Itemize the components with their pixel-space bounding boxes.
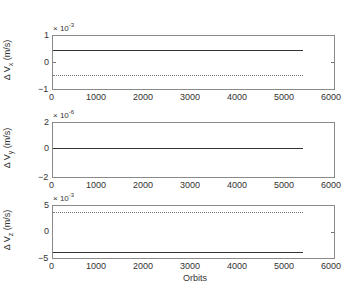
y-exponent-label: × 10-3 [53, 22, 74, 33]
y-tick-label: 5 [44, 200, 49, 210]
y-tick-label: −2 [38, 172, 48, 182]
y-tick [331, 62, 334, 63]
dotted-series-line [53, 212, 303, 213]
x-tick-label: 5000 [274, 261, 294, 271]
y-axis-label: Δ Vx (m/s) [2, 40, 14, 81]
x-tick-label: 4000 [227, 92, 247, 102]
y-tick-label: −1 [38, 84, 48, 94]
x-tick-label: 6000 [321, 261, 341, 271]
x-tick-label: 1000 [86, 261, 106, 271]
x-tick-label: 1000 [86, 92, 106, 102]
x-tick-label: 4000 [227, 261, 247, 271]
x-tick-label: 3000 [180, 180, 200, 190]
y-tick [331, 232, 334, 233]
x-tick-label: 6000 [321, 180, 341, 190]
x-tick-label: 5000 [274, 92, 294, 102]
solid-series-line [53, 50, 303, 51]
x-tick-label: 0 [49, 261, 54, 271]
x-tick-label: 2000 [133, 92, 153, 102]
x-tick-label: 4000 [227, 180, 247, 190]
y-tick-label: 0 [44, 143, 49, 153]
x-tick-label: 5000 [274, 180, 294, 190]
x-tick-label: 1000 [86, 180, 106, 190]
y-tick [53, 62, 56, 63]
plot-area [52, 35, 335, 90]
solid-series-line [53, 252, 303, 253]
y-axis-label: Δ Vy (m/s) [2, 128, 14, 169]
x-axis-label: Orbits [183, 273, 207, 283]
y-tick-label: −5 [38, 253, 48, 263]
y-axis-label: Δ Vz (m/s) [2, 210, 14, 251]
y-exponent-label: × 10-6 [53, 109, 74, 120]
x-tick-label: 0 [49, 180, 54, 190]
y-tick-label: 0 [44, 226, 49, 236]
y-exponent-label: × 10-3 [53, 192, 74, 203]
x-tick-label: 6000 [321, 92, 341, 102]
y-tick-label: 1 [44, 30, 49, 40]
y-tick-label: 0 [44, 57, 49, 67]
x-tick-label: 2000 [133, 261, 153, 271]
x-tick-label: 0 [49, 92, 54, 102]
x-tick-label: 2000 [133, 180, 153, 190]
plot-area [52, 122, 335, 178]
x-tick-label: 3000 [180, 261, 200, 271]
solid-series-line [53, 148, 303, 149]
dotted-series-line [53, 75, 303, 76]
x-tick-label: 3000 [180, 92, 200, 102]
y-tick-label: 2 [44, 117, 49, 127]
plot-area [52, 205, 335, 259]
